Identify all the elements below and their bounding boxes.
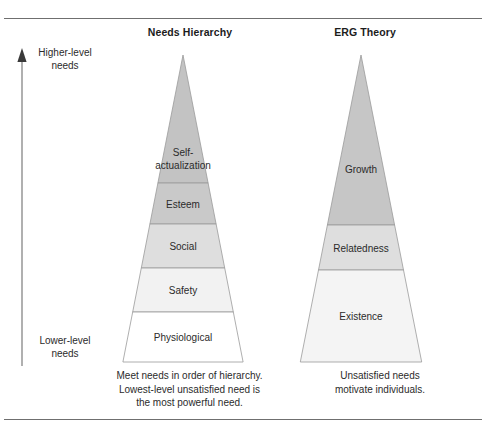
pyramid-erg-theory: Growth Relatedness Existence (300, 55, 421, 362)
tier-label-growth: Growth (345, 164, 377, 175)
pyramids-canvas: Self- actualization Esteem Social Safety… (0, 0, 486, 432)
tier-label-safety: Safety (169, 285, 197, 296)
caption-erg-theory: Unsatisfied needs motivate individuals. (300, 369, 460, 396)
tier-label-existence: Existence (339, 311, 383, 322)
caption-needs-hierarchy-line3: the most powerful need. (82, 396, 297, 410)
tier-label-esteem: Esteem (166, 199, 200, 210)
tier-label-self-actualization-line1: Self- (173, 147, 194, 158)
tier-shape-growth[interactable] (327, 55, 394, 225)
tier-label-social: Social (169, 241, 196, 252)
figure-frame: Needs Hierarchy ERG Theory Higher-level … (0, 0, 486, 432)
tier-label-self-actualization-line2: actualization (155, 160, 211, 171)
caption-erg-theory-line2: motivate individuals. (300, 383, 460, 397)
tier-label-physiological: Physiological (154, 332, 212, 343)
caption-erg-theory-line1: Unsatisfied needs (300, 369, 460, 383)
vertical-arrow-icon (17, 48, 26, 366)
pyramid-needs-hierarchy: Self- actualization Esteem Social Safety… (123, 55, 243, 362)
caption-needs-hierarchy-line1: Meet needs in order of hierarchy. (82, 369, 297, 383)
caption-needs-hierarchy-line2: Lowest-level unsatisfied need is (82, 383, 297, 397)
caption-needs-hierarchy: Meet needs in order of hierarchy. Lowest… (82, 369, 297, 410)
tier-label-relatedness: Relatedness (333, 243, 389, 254)
